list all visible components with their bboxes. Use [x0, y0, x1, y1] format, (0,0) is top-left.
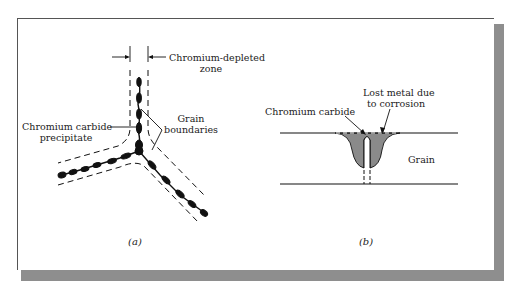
label-depleted-zone-line2: zone [196, 63, 226, 74]
label-depleted-zone: Chromium-depleted [169, 52, 265, 63]
caption-a: (a) [125, 236, 145, 247]
label-grain-boundaries-line2: boundaries [163, 124, 219, 135]
caption-b: (b) [356, 236, 376, 247]
corrosion-cross-section-b [280, 109, 458, 184]
label-grain-boundaries-line1: Grain [166, 113, 216, 124]
label-grain: Grain [408, 154, 435, 165]
label-carbide-precipitate-line2: precipitate [22, 132, 110, 143]
label-carbide-precipitate-line1: Chromium carbide [22, 121, 110, 132]
diagram-canvas [0, 0, 519, 295]
label-lost-metal-line2: to corrosion [363, 98, 429, 109]
label-lost-metal-line1: Lost metal due [363, 87, 429, 98]
label-chromium-carbide: Chromium carbide [265, 106, 355, 117]
label-depleted-zone-line1: Chromium-depleted [169, 52, 265, 63]
